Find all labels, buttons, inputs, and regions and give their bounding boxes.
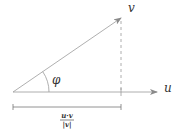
fraction-denominator: |v| [62,120,71,129]
label-phi: φ [52,73,61,87]
label-u: u [164,81,172,95]
fraction-numerator: u·v [61,111,74,120]
angle-arc [43,72,49,92]
projection-diagram: v u φ u·v |v| [0,0,180,134]
vector-v-line [13,18,121,92]
label-v: v [128,1,135,15]
